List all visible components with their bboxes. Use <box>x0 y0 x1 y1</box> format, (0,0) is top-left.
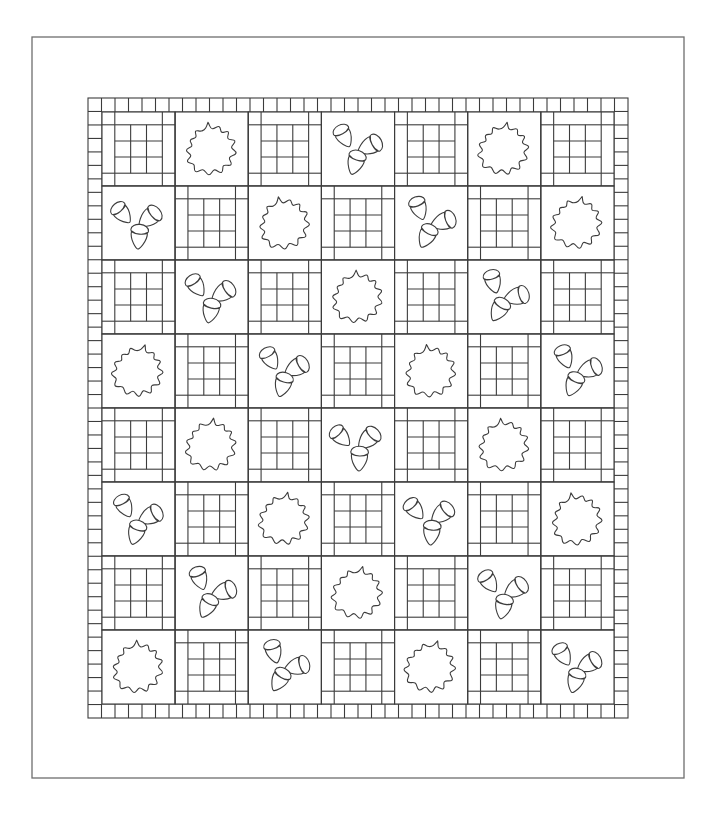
pieced-block-r7-c7 <box>541 556 614 630</box>
pieced-block-r3-c5 <box>395 260 468 334</box>
acorn-block-r4-c7 <box>541 334 614 408</box>
pieced-block-r7-c5 <box>395 556 468 630</box>
applique-block-outline <box>468 556 541 630</box>
pieced-block-outline <box>102 408 175 482</box>
pieced-block-outline <box>468 334 541 408</box>
acorn-block-r4-c3 <box>248 334 321 408</box>
leaf-block-r6-c3 <box>248 482 321 556</box>
pieced-block-outline <box>248 408 321 482</box>
pieced-block-outline <box>321 334 394 408</box>
pieced-block-outline <box>395 260 468 334</box>
pieced-block-r3-c7 <box>541 260 614 334</box>
pieced-block-r1-c3 <box>248 112 321 186</box>
applique-block-outline <box>468 260 541 334</box>
pieced-block-r5-c5 <box>395 408 468 482</box>
leaf-block-r5-c2 <box>175 408 248 482</box>
acorn-block-r2-c5 <box>395 186 468 260</box>
acorn-block-r7-c6 <box>468 556 541 630</box>
applique-block-outline <box>395 186 468 260</box>
acorn-block-r3-c2 <box>175 260 248 334</box>
applique-block-outline <box>541 334 614 408</box>
block-layer <box>102 112 614 704</box>
leaf-block-r1-c2 <box>175 112 248 186</box>
leaf-block-r5-c6 <box>468 408 541 482</box>
pieced-block-outline <box>395 556 468 630</box>
acorn-block-r1-c4 <box>321 112 394 186</box>
pieced-block-outline <box>248 556 321 630</box>
pieced-block-outline <box>175 334 248 408</box>
applique-block-outline <box>175 260 248 334</box>
leaf-block-r3-c4 <box>321 260 394 334</box>
acorn-block-r6-c5 <box>395 482 468 556</box>
pieced-block-r4-c4 <box>321 334 394 408</box>
pieced-block-outline <box>102 556 175 630</box>
pieced-block-outline <box>321 186 394 260</box>
leaf-block-r8-c1 <box>102 630 175 704</box>
leaf-block-r7-c4 <box>321 556 394 630</box>
pieced-block-outline <box>175 186 248 260</box>
acorn-block-r8-c3 <box>248 630 321 704</box>
pieced-block-r4-c6 <box>468 334 541 408</box>
acorn-block-r5-c4 <box>321 408 394 482</box>
leaf-block-r4-c5 <box>395 334 468 408</box>
leaf-block-r8-c5 <box>395 630 468 704</box>
pieced-block-r2-c2 <box>175 186 248 260</box>
quilt-pattern-svg <box>0 0 720 813</box>
pieced-block-outline <box>248 112 321 186</box>
pieced-block-r5-c1 <box>102 408 175 482</box>
pieced-block-outline <box>102 260 175 334</box>
acorn-block-r3-c6 <box>468 260 541 334</box>
pieced-block-r3-c3 <box>248 260 321 334</box>
pieced-block-outline <box>102 112 175 186</box>
pieced-block-r8-c4 <box>321 630 394 704</box>
pieced-block-r2-c4 <box>321 186 394 260</box>
pieced-block-r6-c2 <box>175 482 248 556</box>
pieced-block-outline <box>175 630 248 704</box>
pieced-block-r3-c1 <box>102 260 175 334</box>
pieced-block-r7-c1 <box>102 556 175 630</box>
leaf-block-r2-c7 <box>541 186 614 260</box>
pieced-block-outline <box>541 556 614 630</box>
pieced-block-outline <box>321 482 394 556</box>
pieced-block-outline <box>541 260 614 334</box>
pieced-block-r5-c3 <box>248 408 321 482</box>
pieced-block-outline <box>468 186 541 260</box>
pieced-block-r7-c3 <box>248 556 321 630</box>
leaf-block-r2-c3 <box>248 186 321 260</box>
pieced-block-r1-c1 <box>102 112 175 186</box>
pieced-block-r8-c2 <box>175 630 248 704</box>
acorn-block-r8-c7 <box>541 630 614 704</box>
pieced-block-r4-c2 <box>175 334 248 408</box>
quilt-diagram-canvas: Oak Leaf and Acorn Sampler Quilt Layout … <box>0 0 720 813</box>
applique-block-outline <box>321 112 394 186</box>
pieced-block-outline <box>395 112 468 186</box>
pieced-block-outline <box>541 112 614 186</box>
pieced-block-r1-c7 <box>541 112 614 186</box>
pieced-block-r6-c4 <box>321 482 394 556</box>
pieced-block-r6-c6 <box>468 482 541 556</box>
pieced-block-r2-c6 <box>468 186 541 260</box>
acorn-block-r7-c2 <box>175 556 248 630</box>
applique-block-outline <box>248 334 321 408</box>
pieced-block-outline <box>541 408 614 482</box>
pieced-block-outline <box>175 482 248 556</box>
applique-block-outline <box>248 630 321 704</box>
leaf-block-r4-c1 <box>102 334 175 408</box>
pieced-block-outline <box>468 630 541 704</box>
pieced-block-r8-c6 <box>468 630 541 704</box>
leaf-block-r6-c7 <box>541 482 614 556</box>
pieced-block-outline <box>248 260 321 334</box>
pieced-block-outline <box>468 482 541 556</box>
pieced-block-outline <box>395 408 468 482</box>
applique-block-outline <box>102 482 175 556</box>
pieced-block-r1-c5 <box>395 112 468 186</box>
pieced-block-r5-c7 <box>541 408 614 482</box>
acorn-block-r6-c1 <box>102 482 175 556</box>
leaf-block-r1-c6 <box>468 112 541 186</box>
applique-block-outline <box>541 630 614 704</box>
applique-block-outline <box>175 556 248 630</box>
pieced-block-outline <box>321 630 394 704</box>
acorn-block-r2-c1 <box>102 186 175 260</box>
